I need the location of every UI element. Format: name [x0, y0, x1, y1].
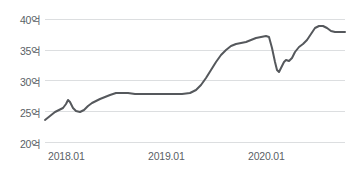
- line-chart: 40억 35억 30억 25억 20억 2018.01 2019.01 2020…: [0, 0, 356, 177]
- y-tick-label-20: 20억: [1, 136, 41, 151]
- y-tick-label-40: 40억: [1, 12, 41, 27]
- x-tick-label-2020: 2020.01: [248, 150, 285, 162]
- x-tick-label-2018: 2018.01: [48, 150, 85, 162]
- y-tick-label-30: 30억: [1, 74, 41, 89]
- y-tick-label-25: 25억: [1, 105, 41, 120]
- x-tick-label-2019: 2019.01: [148, 150, 185, 162]
- series-line: [45, 26, 345, 120]
- gridlines: [45, 20, 345, 143]
- y-tick-label-35: 35억: [1, 43, 41, 58]
- y-axis-labels: 40억 35억 30억 25억 20억: [0, 0, 41, 177]
